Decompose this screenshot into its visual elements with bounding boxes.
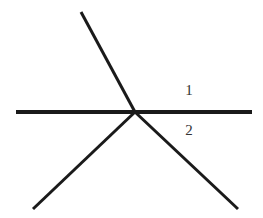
angle-2-label: 2: [185, 122, 193, 138]
angle-diagram: 1 2: [0, 0, 263, 218]
lower-left-ray: [33, 112, 135, 209]
diagram-lines: [16, 12, 252, 209]
upper-left-ray: [81, 12, 135, 112]
angle-1-label: 1: [185, 82, 193, 98]
